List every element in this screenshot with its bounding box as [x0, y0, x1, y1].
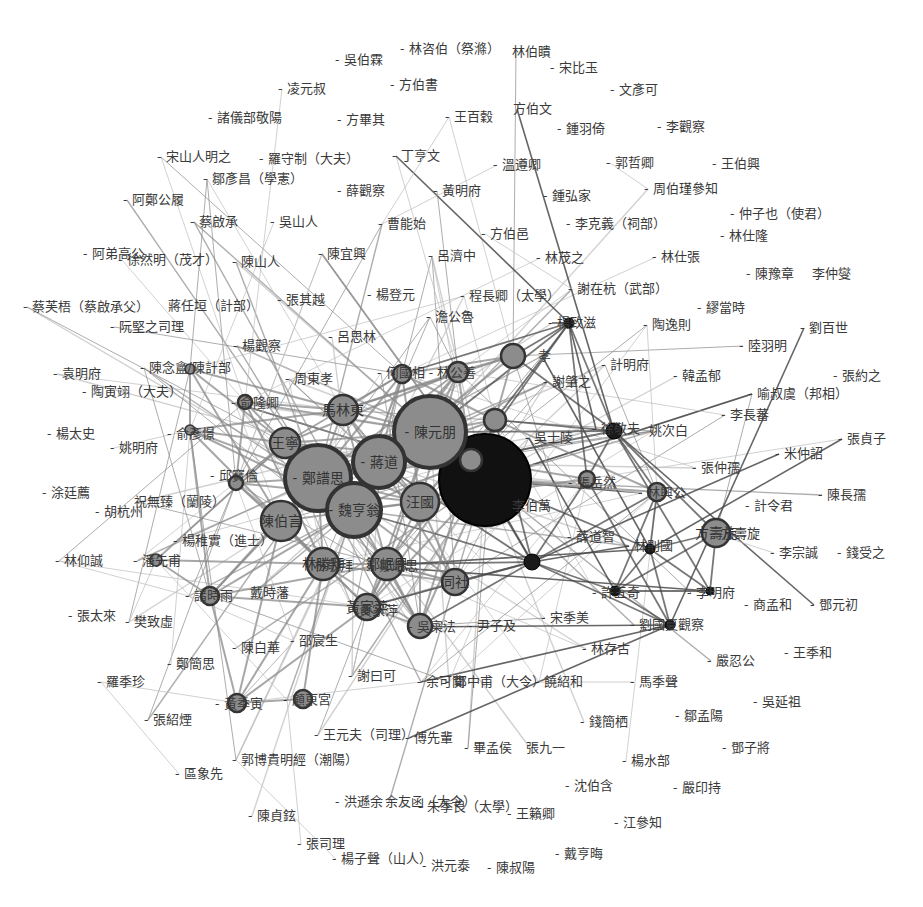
person-label: - 朱季良（太學） — [418, 799, 518, 814]
person-label: - 馬季聲 — [630, 674, 678, 689]
person-label: - 嚴忍公 — [707, 653, 755, 668]
person-label: - 陳長孺 — [818, 487, 866, 502]
person-label: - 宋季美 — [541, 610, 589, 625]
person-label: - 阮堅之司理 — [110, 319, 184, 334]
edge — [437, 191, 458, 372]
person-label: - 陳白華 — [232, 640, 280, 655]
edge — [513, 52, 516, 356]
person-label: - 鄧元初 — [810, 597, 858, 612]
person-label: - 呂思林 — [328, 329, 376, 344]
person-label: - 曹能始 — [378, 216, 426, 231]
node-n_black2 — [524, 554, 540, 570]
person-label: - 陳宜興 — [318, 246, 366, 261]
person-label: - 何國相 - 林公善 — [377, 365, 476, 380]
person-label: - 區象先 — [175, 766, 223, 781]
person-label: - 楊水部 — [622, 753, 670, 768]
person-label: - 楊致滋 — [548, 315, 596, 330]
person-label: - 方伯書 — [390, 77, 438, 92]
person-label: - 宋比玉 — [550, 60, 598, 75]
person-label: - 楊太史 — [47, 426, 95, 441]
person-label: - 潘先甫 — [133, 553, 181, 568]
person-label: - 錢簡栖 — [580, 714, 628, 729]
person-label: - 張司理 — [297, 836, 345, 851]
node-label: 馬林東 — [322, 402, 364, 418]
person-label: - 林咨伯（祭滌） — [400, 41, 500, 56]
social-network-graph: - 陳元朋- 鄭譜思- 蔣道- 魏亨翁陳伯言汪國馬林東王寧林勝拜鄒岷思同社黃家萍… — [0, 0, 923, 907]
node-n_zhou_qi — [484, 409, 506, 431]
person-label: - 鍾弘家 — [543, 188, 591, 203]
person-label: - 林仰誠 — [55, 553, 103, 568]
node-label: 陳伯言 — [260, 513, 302, 529]
person-label: 蔣任垣（計部） — [168, 298, 259, 313]
edge — [245, 89, 282, 402]
person-label: - 林仕張 — [652, 249, 700, 264]
person-label: - 李宗誠 — [770, 545, 818, 560]
person-label: 張九一 — [526, 740, 565, 755]
person-label: - 澹公魯 — [426, 309, 474, 324]
person-label: - 陳念盦/陳計部 — [140, 360, 231, 375]
person-label: - 林存古 — [582, 641, 630, 656]
node-label: 王寧 — [271, 435, 299, 451]
person-label: - 鄒孟陽 — [675, 708, 723, 723]
person-label: - 羅守制（大夫） — [259, 151, 359, 166]
person-label: - 丁亨文 — [392, 148, 440, 163]
person-label: - 王伯興 — [712, 156, 760, 171]
person-label: - 張仲孺 — [692, 460, 740, 475]
person-label: - 鄒彥昌（學憲） — [203, 171, 303, 186]
person-label: - 林興公 — [638, 485, 686, 500]
person-label: - 楊登元 — [367, 287, 415, 302]
person-label: - 李明府 — [687, 585, 735, 600]
node-label: - 蔣道 — [360, 454, 397, 470]
person-label: - 陳貞鉉 — [248, 808, 296, 823]
person-label: - 李長蕃 — [721, 407, 769, 422]
person-label: - 鄧子將 — [722, 740, 770, 755]
person-label: - 涂廷薦 — [42, 485, 90, 500]
person-label: - 王季和 — [784, 645, 832, 660]
person-label: - 謝肇之 — [543, 374, 591, 389]
person-label: - 楊觀察 — [233, 338, 281, 353]
person-label: 祝無臻（蘭陵） — [134, 494, 225, 509]
person-label: - 陳豫章 — [746, 266, 794, 281]
person-label: - 陳叔陽 — [487, 860, 535, 875]
person-label: - 計令君 — [745, 498, 793, 513]
node-n_wu_yu — [460, 449, 482, 471]
person-label: - 黃家萍 — [350, 603, 398, 618]
person-label: - 黃季寅 — [215, 696, 263, 711]
person-label: - 徐然明（茂才） — [118, 252, 218, 267]
node-label: - 魏亨翁 — [328, 502, 379, 518]
person-label: - 呂濟中 — [428, 248, 476, 263]
person-label: - 方畢其 — [337, 112, 385, 127]
person-label: - 薛道智 — [567, 529, 615, 544]
person-label: - 饒紹和 — [535, 674, 583, 689]
person-label: - 蔡芙梧（蔡啟承父） — [23, 299, 149, 314]
person-label: - 鄭簡思 — [167, 656, 215, 671]
person-label: - 邵宸生 — [290, 633, 338, 648]
person-label: - 仲子也（使君） — [730, 206, 830, 221]
person-label: - 樊致虛 — [125, 614, 173, 629]
node-label: - 鄭譜思 — [292, 470, 343, 486]
person-label: - 張約之 — [833, 368, 881, 383]
person-label: - 張其越 — [277, 292, 325, 307]
person-label: - 周伯瑾參知 — [644, 181, 718, 196]
person-label: - 戴亨晦 — [555, 846, 603, 861]
person-label: - 顧東宮 — [283, 692, 331, 707]
person-label: - 張紹煙 — [144, 712, 192, 727]
person-label: - 傅先輩 — [405, 730, 453, 745]
person-label: - 陸羽明 — [739, 338, 787, 353]
person-label: 方伯文 — [513, 101, 552, 116]
person-label: - 林則國 — [625, 538, 673, 553]
person-label: - 鍾羽倚 — [557, 121, 605, 136]
person-label: - 諸儀部敬陽 — [208, 110, 282, 125]
person-label: 李伯萬 — [512, 498, 551, 513]
person-label: - 洪遜余 — [335, 794, 383, 809]
person-label: - 吳伯霖 — [335, 52, 383, 67]
person-label: - 江參知 — [614, 815, 662, 830]
node-label: 同社 — [441, 574, 469, 590]
edge — [303, 564, 323, 699]
person-label: 戴時藩 — [250, 585, 289, 600]
person-label: - 張太來 — [68, 608, 116, 623]
person-label: - 徐敬夫 — [592, 421, 640, 436]
person-label: - 袁明府 — [53, 366, 101, 381]
person-label: - 王籟卿 — [507, 806, 555, 821]
node-n_hu_xing — [501, 344, 525, 368]
